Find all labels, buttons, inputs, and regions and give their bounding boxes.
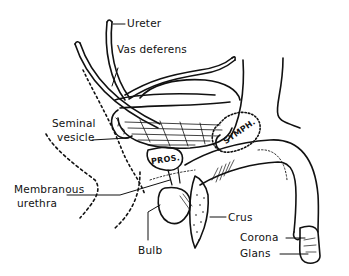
anatomy-drawing	[0, 0, 349, 276]
label-ureter: Ureter	[127, 18, 161, 29]
label-glans: Glans	[240, 248, 271, 259]
label-seminal-vesicle-2: vesicle	[57, 132, 95, 143]
label-vas-deferens: Vas deferens	[117, 44, 187, 55]
bulb-shape	[158, 188, 190, 224]
label-crus: Crus	[228, 212, 253, 223]
crus-shape	[190, 176, 209, 248]
label-seminal-vesicle-1: Seminal	[52, 118, 96, 129]
label-bulb: Bulb	[138, 245, 162, 256]
label-membranous-urethra-1: Membranous	[14, 184, 84, 195]
vas-deferens-shape	[125, 57, 235, 99]
crus-stipple	[193, 194, 205, 241]
glans-shape	[294, 226, 320, 263]
anatomy-figure: Ureter Vas deferens Seminal vesicle Memb…	[0, 0, 349, 276]
ureter-shape	[106, 20, 129, 100]
leader-lines	[67, 24, 308, 254]
label-membranous-urethra-2: urethra	[17, 198, 57, 209]
pelvis-outline	[277, 58, 300, 128]
dotted-outline-membranous	[115, 172, 140, 228]
label-corona: Corona	[240, 232, 279, 243]
